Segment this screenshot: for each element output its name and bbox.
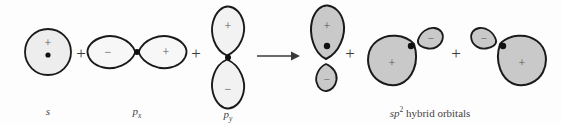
hybrid-orbital-3-group: + − bbox=[471, 28, 546, 85]
py-orbital-nucleus-dot bbox=[225, 55, 231, 61]
hybrid-2-nucleus-dot bbox=[408, 43, 414, 49]
py-orbital-group: + − bbox=[212, 6, 244, 108]
sp2-hybridization-diagram: + − + + − bbox=[0, 0, 561, 125]
hybrid-orbital-2-group: + − bbox=[368, 28, 443, 85]
s-orbital-group: + bbox=[25, 29, 71, 75]
px-orbital-nucleus-dot bbox=[134, 49, 140, 55]
py-sign-minus: − bbox=[225, 82, 232, 96]
hybrid-1-sign-plus: + bbox=[324, 19, 331, 33]
operator-plus-4: + bbox=[446, 45, 466, 62]
hybrid-3-sign-minus: − bbox=[480, 32, 486, 44]
hybrid-3-sign-plus: + bbox=[519, 56, 526, 70]
px-sign-plus: + bbox=[163, 45, 170, 59]
operator-plus-3: + bbox=[340, 45, 360, 62]
hybrid-1-sign-minus: − bbox=[323, 73, 329, 85]
px-sign-minus: − bbox=[105, 45, 112, 59]
hybrid-3-nucleus-dot bbox=[500, 43, 506, 49]
operator-plus-1: + bbox=[71, 45, 91, 62]
arrow-head bbox=[291, 52, 300, 61]
s-orbital-nucleus-dot bbox=[45, 52, 50, 57]
px-orbital-group: − + bbox=[87, 36, 186, 68]
label-py-orbital: py bbox=[224, 109, 233, 123]
reaction-arrow bbox=[257, 52, 300, 61]
py-sign-plus: + bbox=[225, 19, 232, 33]
s-orbital-sign-plus: + bbox=[45, 36, 52, 50]
label-px-orbital: px bbox=[133, 106, 142, 120]
hybrid-1-nucleus-dot bbox=[324, 43, 330, 49]
hybrid-2-sign-plus: + bbox=[389, 56, 396, 70]
px-lobe-negative bbox=[87, 36, 135, 68]
hybrid-2-sign-minus: − bbox=[427, 32, 433, 44]
operator-plus-2: + bbox=[186, 45, 206, 62]
label-sp2-hybrid-orbitals: sp2 hybrid orbitals bbox=[390, 106, 471, 119]
label-s-orbital: s bbox=[46, 106, 50, 117]
